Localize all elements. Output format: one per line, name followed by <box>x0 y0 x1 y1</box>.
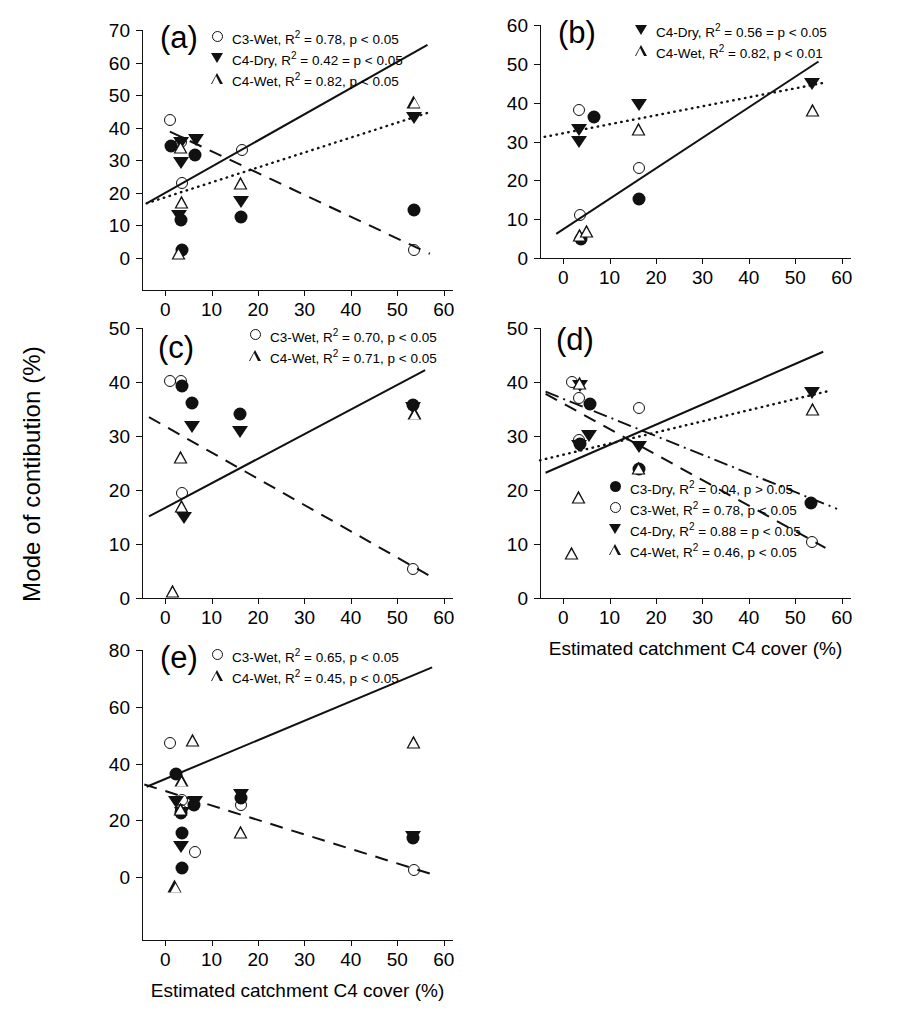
legend-text: C4-Dry, R2 = 0.42 = p < 0.05 <box>230 49 403 67</box>
y-tick-c <box>136 328 142 329</box>
x-tick-label-d: 20 <box>636 608 676 627</box>
legend-text: C3-Wet, R2 = 0.70, p < 0.05 <box>268 326 437 344</box>
legend-text: C3-Wet, R2 = 0.78, p < 0.05 <box>628 499 797 517</box>
x-tick-b <box>610 258 611 264</box>
x-axis-line-d <box>540 598 851 599</box>
y-tick-label-c: 20 <box>84 481 130 500</box>
data-point-d-c3-wet <box>573 392 585 404</box>
y-tick-b <box>534 258 540 259</box>
data-point-a-c4-wet <box>174 195 189 208</box>
data-point-c-c3-dry <box>186 397 199 410</box>
x-tick-label-e: 10 <box>192 950 232 969</box>
x-tick-e <box>258 940 259 946</box>
x-tick-label-c: 20 <box>238 608 278 627</box>
fit-lines-c <box>142 328 453 598</box>
y-axis-line-d <box>540 328 541 598</box>
x-tick-a <box>351 290 352 296</box>
y-tick-b <box>534 142 540 143</box>
data-point-e-c4-wet <box>406 735 421 748</box>
data-point-e-c3-dry <box>175 861 188 874</box>
y-tick-label-c: 50 <box>84 319 130 338</box>
y-tick-a <box>136 258 142 259</box>
data-point-b-c4-dry <box>804 78 820 90</box>
fit-line-a-c3-wet <box>170 132 430 254</box>
data-point-c-c4-wet <box>173 451 188 464</box>
legend-item-a-c3wet: C3-Wet, R2 = 0.78, p < 0.05 <box>204 26 504 47</box>
data-point-c-c4-wet <box>165 584 180 597</box>
data-point-e-c4-wet <box>233 825 248 838</box>
y-tick-e <box>136 764 142 765</box>
legend-marker-circle-open-icon <box>242 329 268 340</box>
x-tick-a <box>444 290 445 296</box>
data-point-a-c4-wet <box>234 176 249 189</box>
data-point-b-c3-wet <box>573 104 585 116</box>
data-point-a-c3-dry <box>189 148 202 161</box>
data-point-e-c4-wet <box>168 880 183 893</box>
y-tick-label-a: 40 <box>84 118 130 137</box>
x-tick-label-d: 40 <box>729 608 769 627</box>
legend-d: C3-Dry, R2 = 0.04, p > 0.05C3-Wet, R2 = … <box>602 476 902 560</box>
figure-root: Mode of contibution (%) 0102030405060700… <box>0 0 921 1015</box>
x-axis-line-e <box>142 940 453 941</box>
y-tick-label-b: 60 <box>482 16 528 35</box>
data-point-a-c4-wet <box>407 96 422 109</box>
legend-item-a-c4wet: C4-Wet, R2 = 0.82, p < 0.05 <box>204 68 504 89</box>
data-point-b-c4-dry <box>571 136 587 148</box>
y-tick-label-e: 40 <box>84 754 130 773</box>
data-point-d-c4-wet <box>564 547 579 560</box>
y-tick-label-b: 0 <box>482 249 528 268</box>
x-tick-label-a: 0 <box>145 300 185 319</box>
x-tick-label-a: 60 <box>424 300 464 319</box>
y-tick-label-d: 10 <box>482 535 528 554</box>
data-point-a-c3-dry <box>235 211 248 224</box>
y-tick-label-b: 50 <box>482 54 528 73</box>
y-tick-label-a: 60 <box>84 53 130 72</box>
legend-item-c-c4wet: C4-Wet, R2 = 0.71, p < 0.05 <box>242 345 542 366</box>
data-point-c-c4-dry <box>176 512 192 524</box>
x-tick-label-c: 40 <box>331 608 371 627</box>
x-tick-c <box>397 598 398 604</box>
y-tick-label-a: 50 <box>84 86 130 105</box>
legend-marker-tri-down-fill-icon <box>602 524 628 534</box>
y-tick-b <box>534 64 540 65</box>
y-tick-e <box>136 650 142 651</box>
x-tick-b <box>656 258 657 264</box>
x-tick-label-d: 50 <box>775 608 815 627</box>
chart-panel-b: 01020304050600102030405060(b)C4-Dry, R2 … <box>540 25 851 258</box>
data-point-a-c4-dry <box>406 112 422 124</box>
x-tick-b <box>842 258 843 264</box>
legend-text: C4-Wet, R2 = 0.71, p < 0.05 <box>268 347 437 365</box>
data-point-e-c4-dry <box>405 831 421 843</box>
y-tick-label-e: 0 <box>84 868 130 887</box>
data-point-c-c3-wet <box>175 375 187 387</box>
y-tick-c <box>136 598 142 599</box>
data-point-d-c4-wet <box>573 377 588 390</box>
fit-line-c-c4-wet <box>149 370 425 516</box>
x-tick-label-c: 60 <box>424 608 464 627</box>
y-tick-label-e: 20 <box>84 811 130 830</box>
y-tick-label-d: 0 <box>482 589 528 608</box>
x-tick-label-e: 40 <box>331 950 371 969</box>
legend-marker-tri-up-open-icon <box>204 73 230 84</box>
y-tick-a <box>136 193 142 194</box>
x-tick-c <box>351 598 352 604</box>
panel-label-d: (d) <box>556 324 594 355</box>
x-axis-title-d: Estimated catchment C4 cover (%) <box>540 638 851 660</box>
y-tick-label-c: 40 <box>84 373 130 392</box>
panel-label-a: (a) <box>160 22 198 53</box>
x-tick-d <box>563 598 564 604</box>
y-tick-label-d: 20 <box>482 481 528 500</box>
x-tick-label-e: 30 <box>284 950 324 969</box>
data-point-b-c4-dry <box>631 99 647 111</box>
fit-line-c-c3-wet <box>149 417 434 578</box>
y-tick-e <box>136 877 142 878</box>
x-tick-label-b: 50 <box>775 268 815 287</box>
y-tick-c <box>136 490 142 491</box>
data-point-e-c3-dry <box>175 827 188 840</box>
legend-marker-tri-down-fill-icon <box>204 53 230 63</box>
x-tick-label-a: 30 <box>284 300 324 319</box>
data-point-b-c3-wet <box>633 162 645 174</box>
legend-text: C4-Dry, R2 = 0.88 = p < 0.05 <box>628 520 801 538</box>
fit-line-d-c4-wet <box>546 352 824 473</box>
data-point-a-c4-wet <box>173 140 188 153</box>
